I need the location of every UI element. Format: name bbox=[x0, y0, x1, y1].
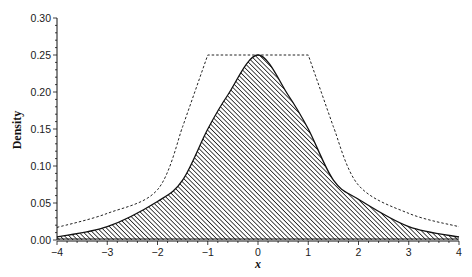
x-tick-label: 3 bbox=[406, 246, 412, 258]
x-tick-label: 1 bbox=[305, 246, 311, 258]
x-axis: −4−3−2−101234 bbox=[51, 241, 462, 258]
x-tick-label: 2 bbox=[356, 246, 362, 258]
x-tick-label: −1 bbox=[202, 246, 214, 258]
y-tick-label: 0.20 bbox=[31, 86, 52, 98]
x-axis-title: x bbox=[254, 257, 261, 271]
x-tick-label: −3 bbox=[101, 246, 113, 258]
y-tick-label: 0.00 bbox=[31, 234, 52, 246]
y-tick-label: 0.05 bbox=[31, 197, 52, 209]
y-tick-label: 0.30 bbox=[31, 12, 52, 24]
x-tick-label: 4 bbox=[456, 246, 462, 258]
y-axis: 0.000.050.100.150.200.250.30 bbox=[31, 12, 57, 246]
y-tick-label: 0.10 bbox=[31, 160, 52, 172]
density-area bbox=[57, 55, 459, 240]
x-tick-label: −2 bbox=[152, 246, 164, 258]
x-tick-label: −4 bbox=[51, 246, 63, 258]
y-tick-label: 0.15 bbox=[31, 123, 52, 135]
plot-area bbox=[57, 55, 459, 240]
y-tick-label: 0.25 bbox=[31, 49, 52, 61]
density-chart: 0.000.050.100.150.200.250.30 −4−3−2−1012… bbox=[0, 0, 472, 277]
y-axis-title: Density bbox=[10, 111, 24, 150]
